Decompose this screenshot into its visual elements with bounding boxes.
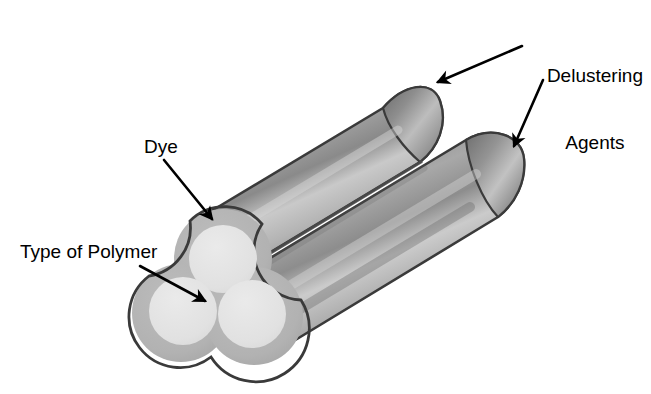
arrow-delustering-upper — [438, 46, 522, 82]
fiber-diagram-figure: Delustering Agents Dye Type of Polymer — [0, 0, 651, 394]
label-delustering-agents: Delustering Agents — [547, 20, 643, 199]
label-type-of-polymer: Type of Polymer — [20, 241, 157, 263]
label-dye: Dye — [144, 136, 178, 158]
label-delustering-agents-line2: Agents — [547, 132, 643, 154]
arrow-delustering-lower — [514, 80, 543, 146]
arrow-dye — [164, 160, 212, 219]
label-delustering-agents-line1: Delustering — [547, 65, 643, 87]
